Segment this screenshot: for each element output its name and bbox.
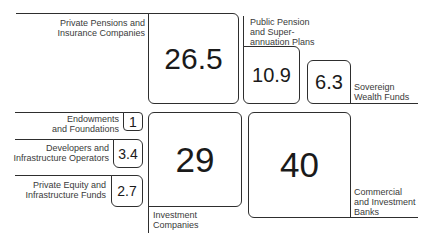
private-equity-leader-line — [15, 175, 112, 176]
sovereign-wealth-leader-line — [350, 103, 418, 104]
sovereign-wealth-label: Sovereign Wealth Funds — [354, 82, 424, 102]
private-equity-value: 2.7 — [117, 183, 136, 199]
developers-leader-line — [15, 139, 114, 140]
private-equity-label: Private Equity and Infrastructure Funds — [5, 180, 106, 200]
endowments-value: 1 — [129, 114, 137, 130]
private-pensions-leader-line — [16, 13, 149, 14]
sovereign-wealth-value: 6.3 — [315, 71, 343, 94]
developers-box: 3.4 — [113, 139, 143, 168]
private-equity-box: 2.7 — [111, 175, 143, 207]
investment-companies-label: Investment Companies — [153, 210, 233, 230]
private-pensions-value: 26.5 — [164, 42, 222, 76]
public-pension-leader-line — [243, 16, 244, 47]
investment-companies-leader-line — [148, 206, 149, 233]
public-pension-label: Public Pension and Super- annuation Plan… — [250, 17, 330, 47]
banks-label: Commercial and Investment Banks — [354, 187, 429, 217]
sovereign-wealth-box: 6.3 — [307, 60, 351, 104]
developers-label: Developers and Infrastructure Operators — [5, 143, 109, 163]
endowments-label: Endowments and Foundations — [20, 114, 119, 134]
endowments-leader-line — [15, 112, 124, 113]
investment-companies-box: 29 — [148, 112, 242, 207]
private-pensions-label: Private Pensions and Insurance Companies — [20, 18, 145, 38]
endowments-box: 1 — [123, 112, 143, 131]
public-pension-box: 10.9 — [243, 46, 300, 104]
banks-leader-line — [350, 217, 418, 218]
private-pensions-box: 26.5 — [148, 13, 239, 104]
investment-companies-value: 29 — [176, 140, 215, 180]
developers-value: 3.4 — [118, 146, 137, 162]
banks-value: 40 — [280, 145, 319, 185]
public-pension-value: 10.9 — [252, 64, 291, 87]
banks-box: 40 — [248, 112, 351, 218]
